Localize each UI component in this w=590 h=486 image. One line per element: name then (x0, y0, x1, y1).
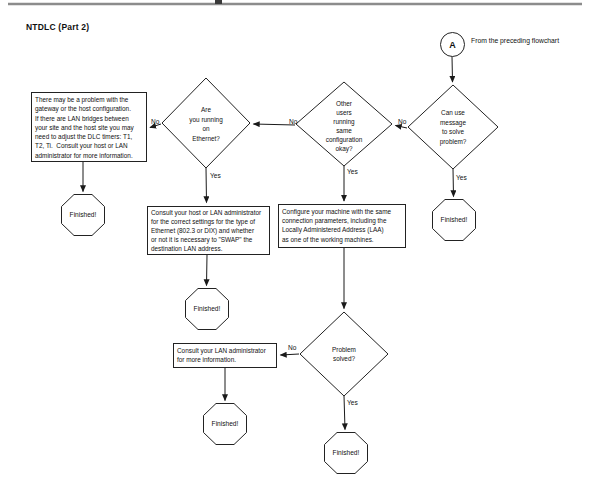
label-ethernet-yes: Yes (210, 172, 221, 179)
process-gateway-problem: There may be a problem with the gateway … (31, 92, 147, 162)
edge-ethernet-yes (206, 168, 207, 203)
page-title: NTDLC (Part 2) (26, 22, 89, 32)
decision-can-use-message-text: Can use message to solve problem? (413, 108, 493, 146)
header-text-remnant (215, 0, 222, 4)
decision-other-users-text: Other users running same configuration o… (304, 99, 384, 153)
terminator-finished-5-label: Finished! (321, 449, 371, 456)
decision-problem-solved-text: Problem solved? (304, 345, 384, 363)
label-problem-solved-yes: Yes (347, 399, 358, 406)
label-can-use-message-yes: Yes (456, 174, 467, 181)
start-caption: From the preceding flowchart (471, 37, 559, 44)
edge-settings-to-finished (207, 255, 208, 286)
start-connector: A (440, 32, 465, 57)
terminator-finished-3-label: Finished! (429, 216, 479, 223)
process-ethernet-settings: Consult your host or LAN administrator f… (147, 206, 270, 255)
label-ethernet-no: No (151, 118, 159, 125)
decision-ethernet-text: Are you running on Ethernet? (166, 105, 246, 143)
label-other-users-yes: Yes (347, 168, 358, 175)
flowchart-canvas: NTDLC (Part 2) A From the preceding flow… (0, 0, 590, 486)
terminator-finished-1-label: Finished! (58, 211, 108, 218)
edge-problem-solved-no (281, 354, 300, 355)
start-connector-label: A (449, 40, 456, 50)
edge-start-to-can-use-message (452, 57, 453, 83)
label-other-users-no: No (289, 118, 297, 125)
edge-problem-solved-yes (344, 396, 345, 430)
edge-can-use-message-no (396, 126, 408, 129)
process-consult-lan: Consult your LAN administrator for more … (173, 343, 277, 368)
label-can-use-message-no: No (398, 118, 406, 125)
label-problem-solved-no: No (288, 344, 296, 351)
terminator-finished-2-label: Finished! (182, 305, 232, 312)
edge-can-use-message-yes (453, 169, 454, 197)
process-configure-laa: Configure your machine with the same con… (278, 204, 406, 248)
terminator-finished-4-label: Finished! (200, 420, 250, 427)
